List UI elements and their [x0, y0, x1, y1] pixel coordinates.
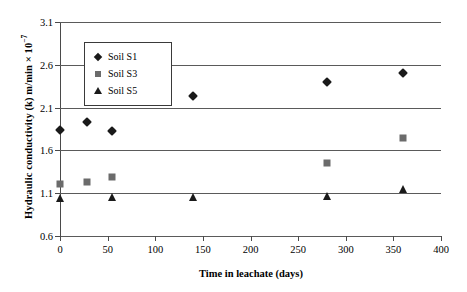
y-axis-tick-mark	[55, 108, 60, 109]
y-axis-tick-label: 2.6	[40, 59, 53, 70]
y-axis-tick-mark	[55, 65, 60, 66]
x-axis-tick-mark	[251, 236, 252, 241]
x-axis-tick-mark	[108, 236, 109, 241]
x-axis-tick-label: 250	[290, 244, 306, 255]
data-point-diamond	[322, 77, 332, 87]
y-axis-tick-label: 0.6	[40, 231, 53, 242]
y-axis-tick-label: 3.1	[40, 17, 53, 28]
data-point-diamond	[188, 91, 198, 101]
data-point-square	[57, 180, 64, 187]
x-axis-tick-label: 100	[147, 244, 163, 255]
legend-item: Soil S5	[91, 82, 165, 99]
y-axis-tick-mark	[55, 22, 60, 23]
legend-marker-diamond-icon	[91, 54, 105, 60]
legend-item-label: Soil S1	[108, 51, 137, 62]
x-axis-title: Time in leachate (days)	[60, 268, 442, 279]
legend-item-label: Soil S3	[108, 68, 137, 79]
y-axis-tick-label: 1.6	[40, 145, 53, 156]
legend-item-label: Soil S5	[108, 85, 137, 96]
x-axis-tick-label: 50	[102, 244, 113, 255]
x-axis-tick-mark	[60, 236, 61, 241]
x-axis-tick-label: 400	[433, 244, 449, 255]
y-axis-tick-label: 1.1	[40, 188, 53, 199]
x-axis-tick-label: 0	[57, 244, 62, 255]
data-point-square	[399, 135, 406, 142]
data-point-triangle	[56, 194, 64, 202]
data-point-triangle	[108, 193, 116, 201]
legend-item: Soil S3	[91, 65, 165, 82]
gridline	[60, 22, 441, 23]
x-axis-tick-mark	[393, 236, 394, 241]
x-axis-tick-mark	[346, 236, 347, 241]
x-axis-tick-label: 200	[243, 244, 259, 255]
x-axis-tick-label: 300	[338, 244, 354, 255]
data-point-diamond	[82, 117, 92, 127]
y-axis-title-text: Hydraulic conductivity (k) m/min × 10	[23, 43, 34, 219]
legend: Soil S1Soil S3Soil S5	[84, 42, 172, 106]
data-point-square	[83, 179, 90, 186]
gridline	[60, 150, 441, 151]
legend-item: Soil S1	[91, 48, 165, 65]
y-axis-title-exponent: −7	[20, 35, 29, 43]
gridline	[60, 108, 441, 109]
legend-marker-square-icon	[91, 71, 105, 77]
gridline	[60, 193, 441, 194]
y-axis-tick-mark	[55, 150, 60, 151]
data-point-triangle	[189, 193, 197, 201]
data-point-square	[109, 173, 116, 180]
x-axis-tick-mark	[203, 236, 204, 241]
y-axis-tick-label: 2.1	[40, 102, 53, 113]
x-axis-tick-label: 150	[195, 244, 211, 255]
data-point-diamond	[55, 125, 65, 135]
y-axis-title: Hydraulic conductivity (k) m/min × 10−7	[20, 22, 34, 232]
x-axis-tick-mark	[155, 236, 156, 241]
legend-marker-triangle-icon	[91, 87, 105, 94]
hydraulic-conductivity-scatter-chart: Hydraulic conductivity (k) m/min × 10−7 …	[0, 0, 467, 292]
data-point-triangle	[323, 192, 331, 200]
data-point-triangle	[399, 185, 407, 193]
x-axis-tick-mark	[298, 236, 299, 241]
x-axis-tick-mark	[441, 236, 442, 241]
x-axis-tick-label: 350	[386, 244, 402, 255]
data-point-square	[323, 160, 330, 167]
data-point-diamond	[398, 68, 408, 78]
data-point-diamond	[107, 126, 117, 136]
